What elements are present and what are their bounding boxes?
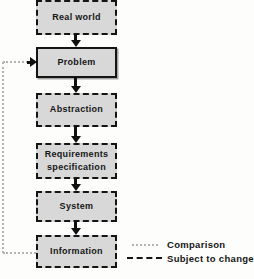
right-arrow-head-icon (30, 57, 37, 67)
down-arrow-problem-to-abstraction (70, 77, 81, 93)
legend-comparison-line-sample (132, 244, 158, 246)
arrow-stem (74, 221, 77, 228)
box-real-world: Real world (36, 0, 117, 35)
arrow-head-icon (71, 40, 81, 47)
down-arrow-real-to-problem (70, 34, 81, 47)
box-system-label: System (60, 200, 94, 213)
legend-subject-to-change-line-sample (127, 257, 162, 259)
comparison-line-bottom (3, 252, 36, 254)
legend-comparison-label: Comparison (167, 239, 225, 250)
arrow-head-icon (71, 86, 81, 93)
arrow-head-icon (71, 184, 81, 191)
legend-subject-to-change-label: Subject to change (167, 253, 254, 264)
down-arrow-abstraction-to-requirements (70, 126, 81, 143)
box-problem-label: Problem (57, 56, 95, 69)
box-real-world-label: Real world (52, 11, 101, 24)
box-requirements-specification: Requirements specification (36, 143, 117, 179)
box-requirements-specification-label: Requirements specification (41, 148, 112, 174)
box-abstraction-label: Abstraction (50, 103, 103, 116)
arrow-head-icon (71, 136, 81, 143)
box-system: System (36, 191, 117, 222)
box-abstraction: Abstraction (36, 93, 117, 127)
box-information-label: Information (50, 245, 103, 258)
down-arrow-system-to-information (70, 221, 81, 235)
arrow-head-icon (71, 228, 81, 235)
comparison-line-top (3, 61, 28, 63)
diagram-canvas: Real world Problem Abstraction Requireme… (0, 0, 254, 279)
comparison-line-vertical (2, 62, 4, 253)
arrow-stem (74, 77, 77, 86)
down-arrow-requirements-to-system (70, 178, 81, 191)
box-information: Information (36, 235, 117, 268)
box-problem: Problem (36, 47, 117, 78)
arrow-stem (74, 126, 77, 136)
